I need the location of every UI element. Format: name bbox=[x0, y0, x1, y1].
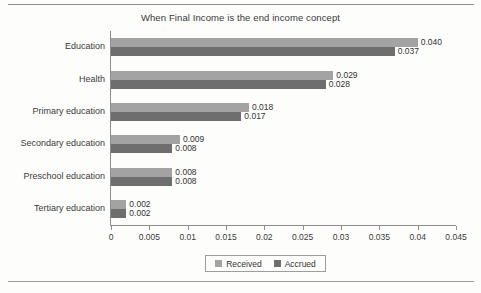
bar-received bbox=[111, 168, 172, 177]
legend-swatch-received-icon bbox=[215, 260, 222, 267]
bar-received bbox=[111, 38, 418, 47]
legend-label-received: Received bbox=[226, 259, 261, 269]
bar-value-label: 0.037 bbox=[398, 46, 419, 56]
chart-legend: Received Accrued bbox=[205, 255, 326, 272]
bar-accrued bbox=[111, 177, 172, 186]
bar-accrued bbox=[111, 80, 326, 89]
x-axis-tick-label: 0.005 bbox=[139, 232, 160, 242]
x-axis-tick bbox=[264, 226, 265, 230]
x-axis-tick-label: 0 bbox=[109, 232, 114, 242]
x-axis-tick bbox=[341, 226, 342, 230]
chart-figure: When Final Income is the end income conc… bbox=[0, 0, 481, 293]
legend-label-accrued: Accrued bbox=[285, 259, 316, 269]
y-axis-category-label: Education bbox=[0, 41, 105, 51]
y-axis-category-label: Health bbox=[0, 74, 105, 84]
bar-received bbox=[111, 71, 333, 80]
bar-value-label: 0.002 bbox=[129, 208, 150, 218]
x-axis-tick bbox=[188, 226, 189, 230]
y-axis-category-label: Preschool education bbox=[0, 171, 105, 181]
x-axis-tick-label: 0.01 bbox=[179, 232, 196, 242]
bar-value-label: 0.040 bbox=[421, 37, 442, 47]
bar-received bbox=[111, 135, 180, 144]
x-axis-tick bbox=[226, 226, 227, 230]
bar-accrued bbox=[111, 112, 241, 121]
bar-received bbox=[111, 200, 126, 209]
y-axis-category-label: Primary education bbox=[0, 106, 105, 116]
bar-value-label: 0.017 bbox=[244, 111, 265, 121]
bar-received bbox=[111, 103, 249, 112]
chart-title: When Final Income is the end income conc… bbox=[0, 12, 481, 23]
bar-value-label: 0.028 bbox=[329, 79, 350, 89]
x-axis-tick bbox=[111, 226, 112, 230]
bar-accrued bbox=[111, 47, 395, 56]
x-axis-tick-label: 0.015 bbox=[215, 232, 236, 242]
x-axis-tick-label: 0.045 bbox=[445, 232, 466, 242]
x-axis-tick-label: 0.035 bbox=[369, 232, 390, 242]
x-axis-tick-label: 0.04 bbox=[409, 232, 426, 242]
legend-entry-received: Received bbox=[215, 259, 261, 269]
x-axis-tick bbox=[303, 226, 304, 230]
bar-accrued bbox=[111, 209, 126, 218]
x-axis-tick bbox=[379, 226, 380, 230]
y-axis-category-label: Secondary education bbox=[0, 138, 105, 148]
x-axis-tick bbox=[456, 226, 457, 230]
x-axis-line bbox=[110, 225, 456, 226]
y-axis-category-label: Tertiary education bbox=[0, 203, 105, 213]
bar-value-label: 0.008 bbox=[175, 143, 196, 153]
legend-swatch-accrued-icon bbox=[274, 260, 281, 267]
legend-entry-accrued: Accrued bbox=[274, 259, 316, 269]
x-axis-tick bbox=[418, 226, 419, 230]
page-rule-top bbox=[8, 4, 474, 5]
y-axis-line bbox=[110, 31, 111, 225]
x-axis-tick-label: 0.03 bbox=[333, 232, 350, 242]
bar-value-label: 0.008 bbox=[175, 176, 196, 186]
page-rule-bottom bbox=[8, 281, 474, 282]
x-axis-tick bbox=[149, 226, 150, 230]
bar-accrued bbox=[111, 144, 172, 153]
x-axis-tick-label: 0.02 bbox=[256, 232, 273, 242]
x-axis-tick-label: 0.025 bbox=[292, 232, 313, 242]
